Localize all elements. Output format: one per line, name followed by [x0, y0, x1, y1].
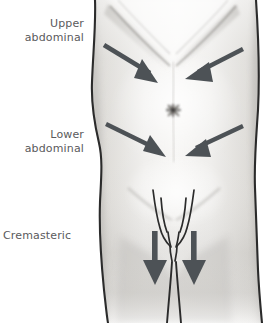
- label-cremasteric: Cremasteric: [3, 229, 98, 243]
- navel: [166, 104, 181, 117]
- label-lower-abdominal: Lower abdominal: [0, 128, 84, 155]
- label-upper-abdominal: Upper abdominal: [0, 17, 84, 44]
- torso-illustration: [0, 0, 266, 323]
- abdominal-reflex-figure: Upper abdominal Lower abdominal Cremaste…: [0, 0, 266, 323]
